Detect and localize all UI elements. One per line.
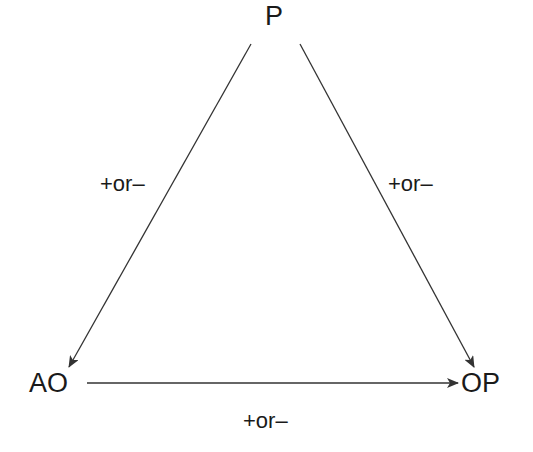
edge-label-p-ao: +or–	[100, 173, 145, 195]
node-p: P	[265, 3, 283, 30]
node-ao: AO	[29, 370, 68, 397]
edge-p-ao	[69, 44, 251, 367]
edge-label-p-op: +or–	[388, 173, 433, 195]
edge-p-op	[300, 44, 474, 367]
edge-label-ao-op: +or–	[243, 410, 288, 432]
diagram-edges	[0, 0, 533, 452]
node-op: OP	[461, 370, 500, 397]
